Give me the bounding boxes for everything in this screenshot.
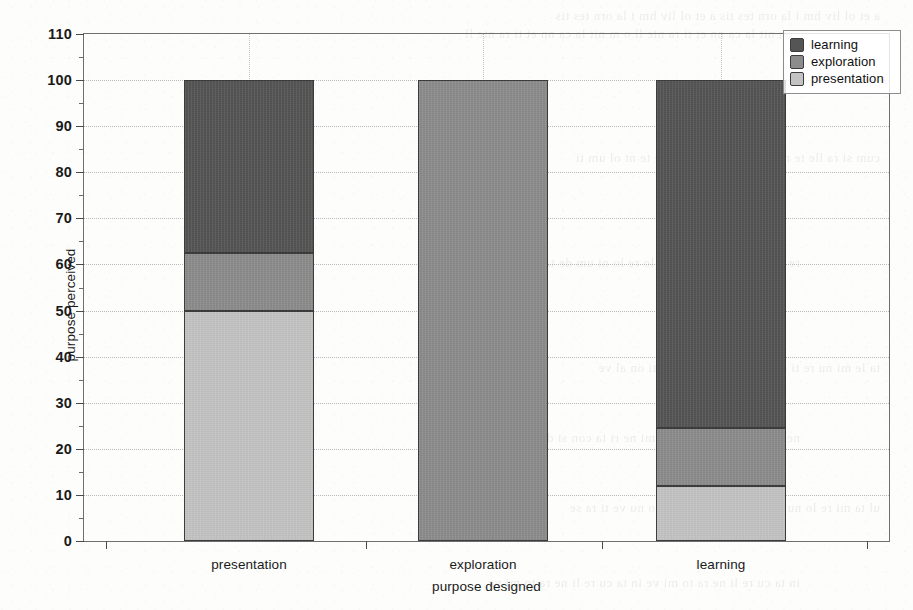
x-axis-title: purpose designed — [84, 579, 889, 594]
y-tick-minor — [79, 57, 84, 58]
y-tick-minor — [79, 334, 84, 335]
bar-group-exploration — [418, 34, 548, 541]
x-tick-mark — [366, 541, 367, 549]
chart-legend: learningexplorationpresentation — [783, 30, 901, 94]
y-tick-major — [76, 80, 84, 81]
bar-group-presentation — [184, 34, 314, 541]
y-tick-minor — [79, 426, 84, 427]
legend-label: presentation — [811, 71, 884, 86]
chart-figure: a et ol liv hm i la orn tes tis a et ol … — [0, 0, 913, 610]
y-tick-label: 30 — [55, 395, 72, 411]
bar-group-learning — [656, 34, 786, 541]
plot-inner — [84, 34, 889, 541]
bar-segment-exploration-exploration — [418, 80, 548, 541]
bar-segment-presentation-presentation — [184, 311, 314, 541]
legend-label: learning — [811, 37, 858, 52]
y-tick-label: 80 — [55, 164, 72, 180]
y-tick-major — [76, 218, 84, 219]
legend-item-exploration: exploration — [790, 53, 894, 70]
y-tick-label: 20 — [55, 441, 72, 457]
y-tick-major — [76, 495, 84, 496]
y-tick-minor — [79, 380, 84, 381]
y-tick-label: 70 — [55, 210, 72, 226]
bar-segment-learning-presentation — [656, 486, 786, 541]
legend-item-presentation: presentation — [790, 70, 894, 87]
bar-segment-learning-exploration — [656, 428, 786, 486]
y-tick-label: 110 — [48, 26, 72, 42]
y-tick-major — [76, 172, 84, 173]
y-tick-major — [76, 126, 84, 127]
y-tick-label: 10 — [55, 487, 72, 503]
y-tick-label: 90 — [55, 118, 72, 134]
legend-swatch-icon — [790, 55, 804, 69]
y-tick-minor — [79, 288, 84, 289]
bleedthrough-line: a et ol liv hm i la orn tes tis a et ol … — [120, 8, 880, 24]
y-tick-minor — [79, 472, 84, 473]
y-tick-minor — [79, 149, 84, 150]
y-tick-major — [76, 403, 84, 404]
y-tick-major — [76, 34, 84, 35]
legend-label: exploration — [811, 54, 876, 69]
y-tick-major — [76, 449, 84, 450]
x-tick-mark — [602, 541, 603, 549]
x-tick-mark — [106, 541, 107, 549]
bar-segment-learning-learning — [656, 80, 786, 428]
legend-swatch-icon — [790, 38, 804, 52]
legend-item-learning: learning — [790, 36, 894, 53]
y-axis-title: purpose perceived — [63, 249, 78, 362]
bar-segment-presentation-exploration — [184, 253, 314, 311]
x-tick-label: exploration — [449, 557, 516, 572]
y-tick-minor — [79, 241, 84, 242]
y-tick-label: 0 — [64, 533, 72, 549]
y-tick-minor — [79, 195, 84, 196]
y-tick-minor — [79, 518, 84, 519]
legend-swatch-icon — [790, 72, 804, 86]
plot-area: 0102030405060708090100110 presentationex… — [83, 33, 890, 542]
y-tick-major — [76, 541, 84, 542]
x-tick-label: learning — [697, 557, 746, 572]
y-tick-minor — [79, 103, 84, 104]
y-tick-label: 100 — [47, 72, 72, 88]
x-tick-label: presentation — [211, 557, 287, 572]
bar-segment-presentation-learning — [184, 80, 314, 253]
x-tick-mark — [867, 541, 868, 549]
